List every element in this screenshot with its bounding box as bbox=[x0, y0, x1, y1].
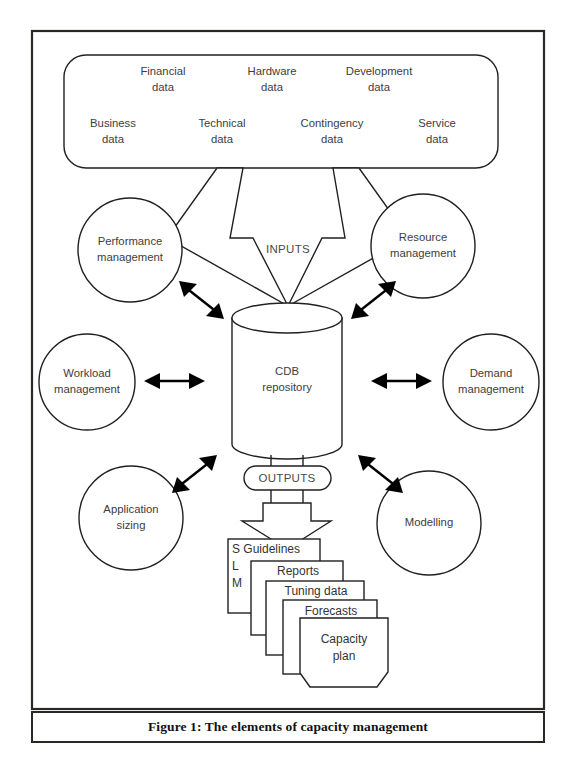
process-label-demand-management-line1: Demand bbox=[470, 367, 513, 379]
process-label-performance-management-line2: management bbox=[97, 251, 164, 263]
arrow-modelling-to-outputs bbox=[358, 455, 403, 493]
document-slm-guidelines-letter-m: M bbox=[232, 576, 242, 590]
document-slm-guidelines-letter-l: L bbox=[232, 559, 239, 573]
process-label-application-sizing-line2: sizing bbox=[117, 519, 146, 531]
document-forecasts-label: Forecasts bbox=[305, 604, 358, 618]
document-capacity-plan-line2: plan bbox=[333, 649, 356, 663]
inputs-item-hardware-line1: Hardware bbox=[248, 65, 297, 77]
inputs-item-contingency-line1: Contingency bbox=[301, 117, 364, 129]
arrow-demand-to-repository bbox=[371, 373, 432, 389]
arrow-resource-to-repository bbox=[351, 281, 396, 319]
inputs-item-service-line2: data bbox=[426, 133, 449, 145]
inputs-item-development-line1: Development bbox=[346, 65, 413, 77]
inputs-item-service-line1: Service bbox=[418, 117, 456, 129]
document-tuning-data-label: Tuning data bbox=[285, 584, 348, 598]
process-label-modelling-line1: Modelling bbox=[405, 516, 453, 528]
inputs-item-technical-line1: Technical bbox=[198, 117, 245, 129]
cdb-repository-line1: CDB bbox=[275, 365, 299, 377]
inputs-item-financial-line2: data bbox=[152, 81, 175, 93]
inputs-item-business-line2: data bbox=[102, 133, 125, 145]
process-label-resource-management-line1: Resource bbox=[399, 231, 447, 243]
inputs-label: INPUTS bbox=[266, 243, 310, 255]
capacity-management-diagram: Figure 1: The elements of capacity manag… bbox=[0, 0, 575, 780]
arrow-workload-to-repository bbox=[144, 373, 205, 389]
arrow-application-sizing-to-outputs bbox=[172, 455, 217, 493]
cdb-repository-cylinder-top bbox=[232, 303, 342, 333]
inputs-item-technical-line2: data bbox=[211, 133, 234, 145]
document-slm-guidelines-label: S Guidelines bbox=[232, 542, 300, 556]
inputs-item-contingency-line2: data bbox=[321, 133, 344, 145]
cdb-repository-line2: repository bbox=[262, 381, 312, 393]
inputs-item-business-line1: Business bbox=[90, 117, 136, 129]
process-label-resource-management-line2: management bbox=[390, 247, 457, 259]
process-label-performance-management-line1: Performance bbox=[98, 235, 163, 247]
inputs-item-financial-line1: Financial bbox=[140, 65, 185, 77]
process-label-application-sizing-line1: Application bbox=[103, 503, 158, 515]
process-label-workload-management-line1: Workload bbox=[63, 367, 111, 379]
document-reports-label: Reports bbox=[277, 564, 319, 578]
inputs-item-hardware-line2: data bbox=[261, 81, 284, 93]
inputs-item-development-line2: data bbox=[368, 81, 391, 93]
figure-caption: Figure 1: The elements of capacity manag… bbox=[148, 719, 428, 734]
document-capacity-plan-line1: Capacity bbox=[321, 632, 368, 646]
figure-container: Figure 1: The elements of capacity manag… bbox=[0, 0, 575, 780]
process-label-workload-management-line2: management bbox=[54, 383, 121, 395]
arrow-performance-to-repository bbox=[179, 281, 224, 319]
process-label-demand-management-line2: management bbox=[458, 383, 525, 395]
outputs-label: OUTPUTS bbox=[258, 472, 315, 484]
